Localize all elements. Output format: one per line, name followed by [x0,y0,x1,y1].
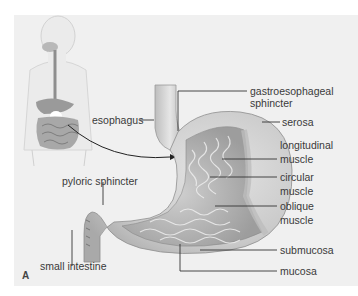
label-esophagus: esophagus [92,114,143,126]
label-serosa: serosa [282,116,314,128]
label-circular-muscle-line2: muscle [280,185,313,197]
label-longitudinal-muscle-line1: longitudinal [280,139,333,151]
label-longitudinal-muscle-line2: muscle [280,153,313,165]
label-gastroesophageal-sphincter-line2: sphincter [250,97,293,109]
label-small-intestine: small intestine [40,260,107,272]
label-gastroesophageal-sphincter-line1: gastroesophageal [250,85,333,97]
body-silhouette [24,16,92,166]
label-circular-muscle-line1: circular [280,171,314,183]
label-oblique-muscle-line1: oblique [280,200,314,212]
panel-letter: A [22,270,29,281]
label-submucosa: submucosa [280,244,334,256]
label-oblique-muscle-line2: muscle [280,214,313,226]
label-mucosa: mucosa [280,265,317,277]
label-pyloric-sphincter: pyloric sphincter [62,175,138,187]
